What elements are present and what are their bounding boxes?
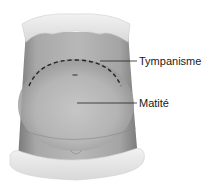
abdomen-illustration — [0, 0, 206, 190]
matite-label: Matité — [139, 97, 169, 109]
torso — [18, 32, 138, 160]
navel — [72, 74, 78, 76]
tympanisme-label: Tympanisme — [139, 55, 201, 67]
